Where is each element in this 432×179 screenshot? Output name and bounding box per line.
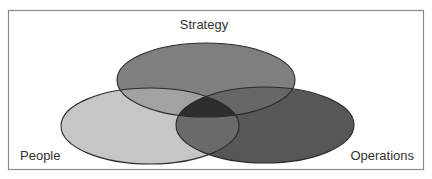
operations-label: Operations xyxy=(350,148,414,163)
people-label: People xyxy=(20,148,60,163)
strategy-label: Strategy xyxy=(180,17,229,32)
venn-diagram: Strategy People Operations xyxy=(0,0,432,179)
